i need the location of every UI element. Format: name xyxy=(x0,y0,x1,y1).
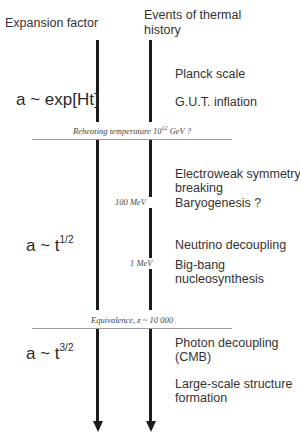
event-bbn-line2: nucleosynthesis xyxy=(175,272,264,287)
law-matter-text: a ~ t xyxy=(26,344,60,363)
right-axis-segment-4 xyxy=(149,269,152,310)
right-axis-segment-3 xyxy=(149,208,152,258)
events-header-line1: Events of thermal xyxy=(144,8,241,23)
event-neutrino-decoupling: Neutrino decoupling xyxy=(175,238,286,253)
law-radiation-exponent: 1/2 xyxy=(60,234,74,245)
event-electroweak-line1: Electroweak symmetry xyxy=(175,167,300,182)
events-header-line2: history xyxy=(144,23,181,38)
event-lss-line2: formation xyxy=(175,391,227,406)
energy-mark-100mev: 100 MeV xyxy=(115,197,146,207)
law-inflation-text: a ~ exp[Ht] xyxy=(16,90,99,109)
event-electroweak-line2: breaking xyxy=(175,181,223,196)
event-lss-line1: Large-scale structure xyxy=(175,377,292,392)
reheating-text: Reheating temperature 10 xyxy=(73,126,161,136)
expansion-factor-header: Expansion factor xyxy=(5,16,98,31)
equivalence-separator xyxy=(32,328,232,329)
energy-mark-1mev: 1 MeV xyxy=(130,258,152,268)
event-bbn-line1: Big-bang xyxy=(175,258,225,273)
law-inflation: a ~ exp[Ht] xyxy=(16,90,99,110)
right-axis-segment-1 xyxy=(149,40,152,122)
law-radiation-text: a ~ t xyxy=(26,236,60,255)
right-axis-arrow-icon xyxy=(146,421,156,432)
equivalence-label: Equivalence, z ~ 10 000 xyxy=(32,315,232,325)
right-axis-segment-2 xyxy=(149,140,152,197)
event-photon-decoupling-line1: Photon decoupling xyxy=(175,336,279,351)
left-axis-segment-3 xyxy=(96,329,99,422)
reheating-label: Reheating temperature 1012 GeV ? xyxy=(32,126,232,136)
reheating-suffix: GeV ? xyxy=(168,126,191,136)
left-axis-arrow-icon xyxy=(93,421,103,432)
reheating-separator xyxy=(32,139,232,140)
law-matter-exponent: 3/2 xyxy=(60,342,74,353)
right-axis-segment-5 xyxy=(149,329,152,422)
law-radiation: a ~ t1/2 xyxy=(26,236,73,256)
event-photon-decoupling-line2: (CMB) xyxy=(175,350,211,365)
left-axis-segment-2 xyxy=(96,140,99,310)
event-baryogenesis: Baryogenesis ? xyxy=(175,196,261,211)
event-gut-inflation: G.U.T. inflation xyxy=(175,95,257,110)
law-matter: a ~ t3/2 xyxy=(26,344,73,364)
event-planck-scale: Planck scale xyxy=(175,67,245,82)
